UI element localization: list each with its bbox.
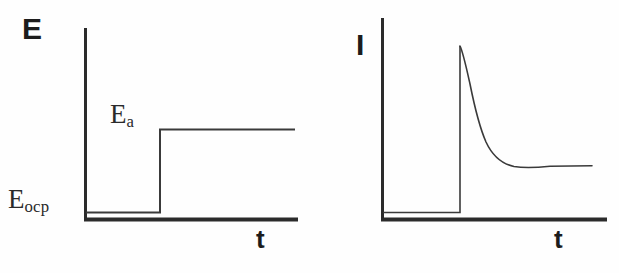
current-decay-curve: [460, 46, 592, 168]
label-e-a-subscript: a: [127, 112, 135, 131]
y-axis-label-potential: E: [22, 14, 43, 44]
label-e-ocp-symbol: E: [8, 184, 25, 214]
x-axis-label-time-left: t: [256, 226, 265, 252]
panel-current-response: I t: [310, 0, 619, 273]
current-rise-segment: [383, 46, 460, 213]
potential-step-curve: [86, 130, 295, 213]
x-axis-label-time-right: t: [554, 226, 563, 252]
label-e-a-symbol: E: [110, 99, 127, 129]
figure-root: E t Eocp Ea I t: [0, 0, 619, 273]
label-e-ocp: Eocp: [8, 186, 49, 213]
panel-potential-step: E t Eocp Ea: [0, 0, 310, 273]
label-e-ocp-subscript: ocp: [25, 197, 50, 216]
label-e-a: Ea: [110, 101, 134, 128]
y-axis-label-current: I: [356, 30, 364, 60]
